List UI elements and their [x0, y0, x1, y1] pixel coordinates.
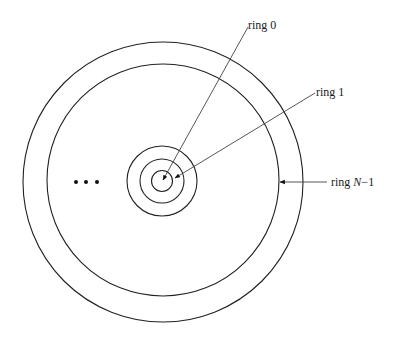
ring-n-minus-1-outer-circle: [23, 42, 303, 322]
ring-0-circle: [152, 171, 173, 192]
ring-1-outer-circle: [140, 159, 184, 203]
ring-1-leader-arrow: [175, 93, 315, 178]
ellipsis-dots: [74, 180, 99, 184]
ring-2-outer-circle: [127, 146, 197, 216]
ring-n-minus-1-label: ring N−1: [331, 175, 374, 189]
ring-diagram: ring 0 ring 1 ring N−1: [0, 0, 395, 337]
ring-0-label: ring 0: [248, 18, 276, 32]
ring-1-label: ring 1: [316, 85, 344, 99]
ring-0-leader-arrow: [163, 27, 248, 180]
